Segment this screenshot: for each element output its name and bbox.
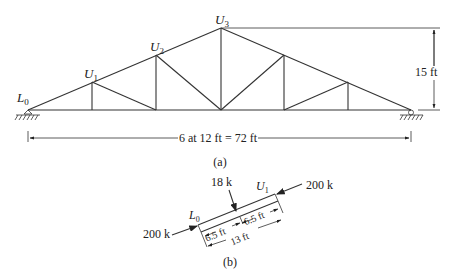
free-body-b: 200 k 200 k 18 k L0 U1 6.5 ft 6.5 ft 13 …: [143, 175, 333, 269]
span-label: 6 at 12 ft = 72 ft: [179, 131, 258, 145]
node-label-L0: L0: [16, 90, 29, 107]
force-right-label: 200 k: [306, 178, 333, 192]
node-label-U1: U1: [84, 66, 98, 83]
node-label-b-L0: L0: [188, 208, 200, 224]
node-label-U2: U2: [150, 39, 164, 56]
caption-a: (a): [213, 155, 226, 169]
load-label: 18 k: [211, 175, 232, 189]
member-top-edge: [198, 194, 275, 225]
load-arrow-18k: [229, 190, 236, 211]
node-label-b-U1: U1: [256, 179, 269, 195]
caption-b: (b): [223, 255, 237, 269]
top-chord-left: [28, 28, 221, 110]
force-left-label: 200 k: [143, 227, 170, 241]
height-dimension: 15 ft: [221, 28, 440, 110]
member-bottom-edge: [201, 201, 278, 232]
diagonal-3: [221, 55, 284, 110]
diagonal-2: [156, 55, 221, 110]
span-dimension: 6 at 12 ft = 72 ft: [28, 131, 411, 145]
truss-a: L0 U1 U2 U3 15 ft 6 at 12 ft = 72 ft: [15, 12, 440, 169]
seg2-label: 6.5 ft: [242, 209, 266, 227]
diagonal-1: [92, 82, 156, 110]
top-chord-right: [221, 28, 411, 110]
diagonal-4: [284, 82, 348, 110]
truss-diagram: L0 U1 U2 U3 15 ft 6 at 12 ft = 72 ft: [0, 0, 459, 277]
node-label-U3: U3: [215, 12, 229, 29]
height-label: 15 ft: [415, 65, 438, 79]
force-arrow-right: [277, 184, 302, 194]
force-arrow-left: [172, 226, 197, 235]
pin-support-icon: [15, 110, 40, 120]
total-label: 13 ft: [229, 230, 251, 247]
roller-support-icon: [400, 110, 423, 120]
